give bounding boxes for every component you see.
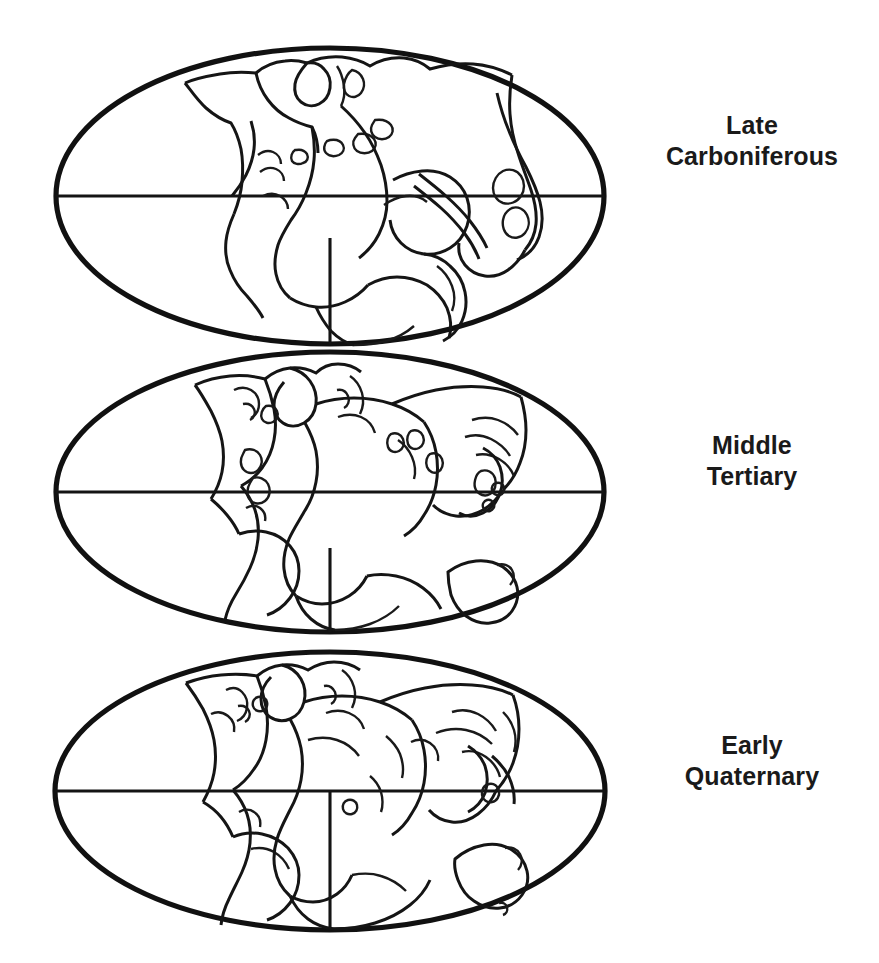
panel-label-line-1: Early [628,730,876,761]
page-bottom-scan-artifact [0,944,879,963]
panel-label-line-2: Quaternary [628,761,876,792]
globe-early-quaternary [0,0,879,963]
panel-label-early-quaternary: Early Quaternary [628,730,876,792]
continental-drift-figure: Late Carboniferous [0,0,879,963]
